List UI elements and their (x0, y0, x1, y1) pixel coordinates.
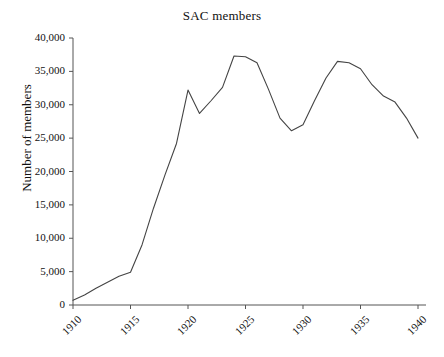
axes (73, 38, 426, 305)
x-tick-marks (73, 305, 418, 309)
y-tick-label: 15,000 (17, 198, 65, 210)
plot-area (0, 0, 444, 357)
chart-figure: SAC members Number of members 05,00010,0… (0, 0, 444, 357)
y-tick-label: 5,000 (17, 265, 65, 277)
y-tick-label: 25,000 (17, 131, 65, 143)
y-tick-label: 35,000 (17, 64, 65, 76)
y-tick-marks (69, 38, 73, 305)
y-tick-label: 10,000 (17, 231, 65, 243)
data-series-line (73, 56, 418, 300)
y-tick-label: 20,000 (17, 165, 65, 177)
y-tick-label: 0 (17, 298, 65, 310)
y-tick-label: 30,000 (17, 98, 65, 110)
y-tick-label: 40,000 (17, 31, 65, 43)
